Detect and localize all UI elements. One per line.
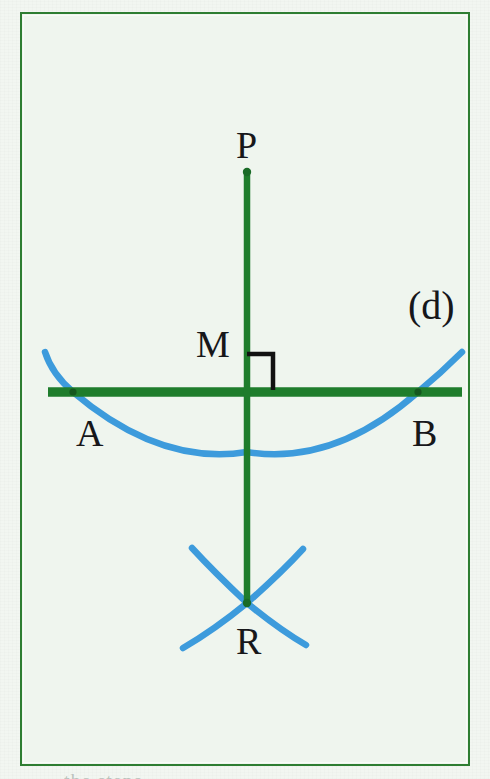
point-label-A: A	[76, 414, 103, 452]
figure-page: P M A B R (d) the steps	[0, 0, 490, 779]
cut-off-caption: the steps	[64, 770, 142, 779]
point-dot-A	[69, 388, 76, 395]
geometry-construction-drawing	[0, 0, 490, 779]
construction-lines-group	[48, 168, 462, 607]
point-label-M: M	[196, 325, 230, 363]
point-label-P: P	[236, 126, 257, 164]
arc-AB	[45, 352, 462, 454]
point-dot-P	[243, 168, 251, 176]
point-dot-R	[243, 599, 251, 607]
right-angle-mark-icon	[247, 354, 273, 390]
point-dot-B	[414, 388, 421, 395]
point-label-R: R	[236, 622, 261, 660]
line-label-d: (d)	[408, 286, 455, 326]
point-label-B: B	[412, 414, 437, 452]
